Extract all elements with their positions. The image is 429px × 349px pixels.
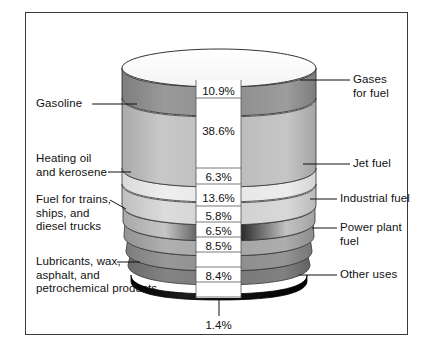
percent-label-lubricants: 8.4% (196, 270, 241, 282)
callout-power-plant-line1: Power plant (340, 221, 402, 235)
callout-gases-line1: Gases (353, 73, 389, 87)
callout-heating-oil-kerosene: Heating oil and kerosene (36, 152, 107, 179)
callout-heating-oil-line1: Heating oil (36, 152, 107, 166)
callout-other-uses: Other uses (340, 268, 397, 282)
callout-power-plant-line2: fuel (340, 235, 402, 249)
callout-lubricants-line2: asphalt, and (36, 269, 157, 283)
value-label-strip (196, 80, 241, 298)
percent-label-gases-for-fuel: 10.9% (196, 85, 241, 97)
callout-heating-oil-line2: and kerosene (36, 166, 107, 180)
percent-label-heating-oil: 13.6% (196, 192, 241, 204)
percent-label-industrial-fuel: 5.8% (196, 210, 241, 222)
percent-label-gasoline: 38.6% (196, 125, 241, 137)
figure-root: 10.9% 38.6% 6.3% 13.6% 5.8% 6.5% 8.5% 8.… (0, 0, 429, 349)
percent-label-jet-fuel: 6.3% (196, 171, 241, 183)
percent-label-trains-ships: 6.5% (196, 225, 241, 237)
callout-trains-ships-trucks: Fuel for trains, ships, and diesel truck… (36, 193, 111, 234)
callout-lubricants-line1: Lubricants, wax, (36, 255, 157, 269)
callout-lubricants-line3: petrochemical products (36, 282, 157, 296)
percent-label-power-plant-fuel: 8.5% (196, 240, 241, 252)
callout-lubricants-wax-asphalt: Lubricants, wax, asphalt, and petrochemi… (36, 255, 157, 296)
callout-industrial-fuel: Industrial fuel (340, 192, 410, 206)
callout-gasoline: Gasoline (36, 97, 82, 111)
percent-label-other-uses: 1.4% (196, 319, 241, 331)
callout-jet-fuel: Jet fuel (353, 157, 391, 171)
callout-gases-for-fuel: Gases for fuel (353, 73, 389, 100)
callout-trains-line2: ships, and (36, 207, 111, 221)
callout-gases-line2: for fuel (353, 87, 389, 101)
callout-trains-line1: Fuel for trains, (36, 193, 111, 207)
callout-trains-line3: diesel trucks (36, 220, 111, 234)
callout-power-plant-fuel: Power plant fuel (340, 221, 402, 248)
